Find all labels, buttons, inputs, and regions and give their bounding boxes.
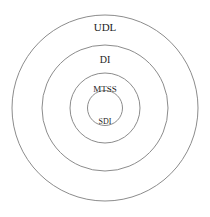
circle-udl: [12, 15, 198, 201]
label-mtss: MTSS: [93, 84, 117, 94]
label-di: DI: [100, 54, 111, 65]
concentric-circles-canvas: UDL DI MTSS SDI: [0, 0, 210, 217]
nested-circles-diagram: UDL DI MTSS SDI: [0, 0, 210, 217]
label-udl: UDL: [94, 21, 117, 33]
label-sdi: SDI: [99, 117, 112, 126]
